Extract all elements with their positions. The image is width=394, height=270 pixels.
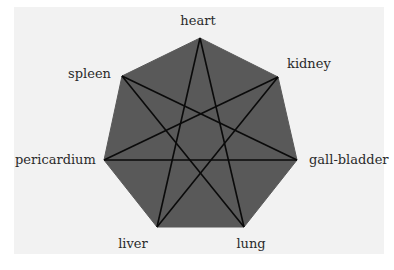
heptagram-diagram: heart kidney gall-bladder lung liver per… [0, 0, 394, 270]
heptagon-shape [104, 38, 297, 227]
label-liver: liver [118, 236, 148, 251]
label-kidney: kidney [287, 56, 331, 71]
label-pericardium: pericardium [15, 152, 96, 167]
label-lung: lung [236, 236, 265, 251]
label-spleen: spleen [68, 66, 112, 81]
label-heart: heart [180, 13, 216, 28]
label-gall-bladder: gall-bladder [309, 152, 389, 167]
